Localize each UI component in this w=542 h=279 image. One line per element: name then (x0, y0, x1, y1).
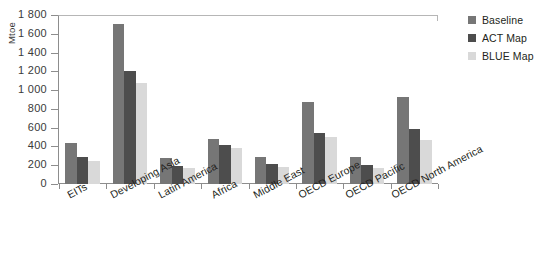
x-axis-tick (59, 184, 60, 189)
y-axis-tick (51, 15, 58, 16)
y-axis-tick-label: 600 (28, 121, 47, 133)
legend: BaselineACT MapBLUE Map (468, 12, 534, 66)
legend-item[interactable]: BLUE Map (468, 48, 534, 64)
y-axis-tick-label: 400 (28, 139, 47, 151)
legend-item-label: BLUE Map (482, 50, 534, 62)
bar-chart-figure: Mtoe 02004006008001 0001 2001 4001 6001 … (0, 0, 542, 279)
y-axis-tick (51, 146, 58, 147)
bar (113, 24, 125, 184)
x-axis-tick (106, 184, 107, 189)
bars-layer (59, 15, 438, 184)
bar-group (113, 15, 148, 184)
legend-item-label: Baseline (482, 14, 523, 26)
y-axis-tick-label: 1 200 (18, 64, 47, 76)
legend-item[interactable]: Baseline (468, 12, 534, 28)
y-axis-tick (51, 71, 58, 72)
bar-group (302, 15, 337, 184)
y-axis-tick (51, 90, 58, 91)
x-axis-tick (201, 184, 202, 189)
y-axis-tick (51, 165, 58, 166)
y-axis-tick-label: 800 (28, 102, 47, 114)
bar-group (397, 15, 432, 184)
y-axis-tick (51, 128, 58, 129)
y-axis-tick-label: 1 600 (18, 27, 47, 39)
y-axis-tick (51, 109, 58, 110)
legend-swatch-icon (468, 16, 476, 24)
y-axis-tick-label: 1 800 (18, 8, 47, 20)
y-axis-tick-label: 0 (41, 177, 47, 189)
bar (255, 157, 267, 184)
x-axis-tick (249, 184, 250, 189)
bar (65, 143, 77, 184)
legend-swatch-icon (468, 34, 476, 42)
x-axis-tick (438, 184, 439, 189)
legend-swatch-icon (468, 52, 476, 60)
y-axis-tick-label: 200 (28, 158, 47, 170)
bar-group (65, 15, 100, 184)
bar (124, 71, 136, 184)
bar (88, 161, 100, 184)
clipped-header-strip (0, 0, 542, 4)
y-axis-tick (51, 34, 58, 35)
legend-item[interactable]: ACT Map (468, 30, 534, 46)
y-axis-tick-label: 1 000 (18, 83, 47, 95)
bar-group (255, 15, 290, 184)
y-axis-tick (51, 53, 58, 54)
legend-item-label: ACT Map (482, 32, 527, 44)
x-axis-tick (154, 184, 155, 189)
y-axis-title: Mtoe (2, 0, 13, 12)
y-axis-tick-label: 1 400 (18, 46, 47, 58)
y-axis-tick (51, 184, 58, 185)
